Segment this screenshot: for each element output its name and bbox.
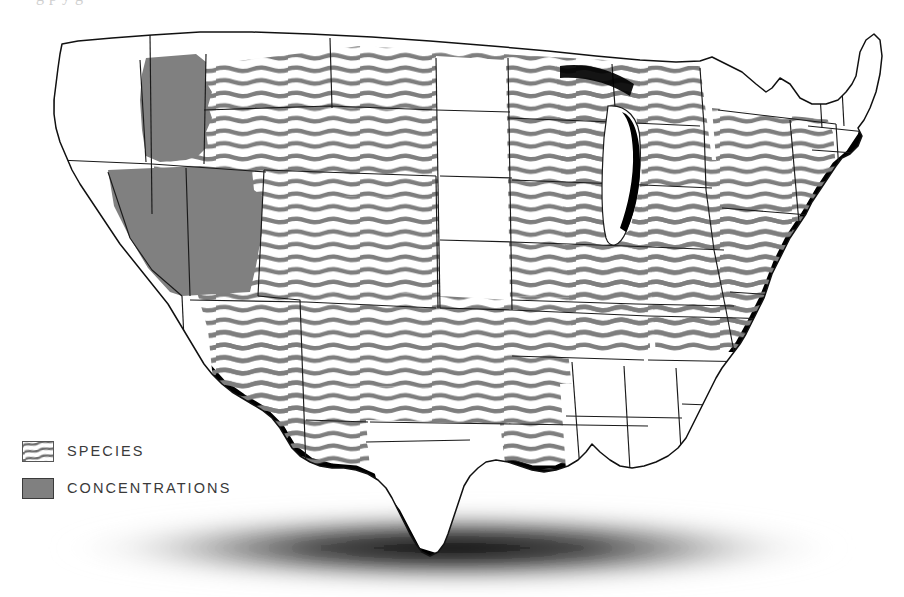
map-legend: SPECIES CONCENTRATIONS [22, 436, 272, 504]
legend-item-concentrations[interactable]: CONCENTRATIONS [22, 473, 272, 504]
legend-label-species: SPECIES [67, 444, 145, 459]
concentrations-swatch-icon [22, 478, 54, 499]
figure-container: g p y g [0, 0, 904, 597]
species-swatch-icon [22, 441, 54, 462]
legend-label-concentrations: CONCENTRATIONS [67, 481, 231, 496]
legend-item-species[interactable]: SPECIES [22, 436, 272, 467]
us-thematic-map [0, 0, 904, 597]
